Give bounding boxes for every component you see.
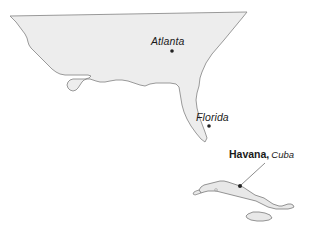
isla-de-la-juventud-landmass [246, 212, 272, 221]
cuba-west-tip-landmass [193, 190, 201, 195]
havana-city-marker [238, 184, 242, 188]
florida-label: Florida [196, 112, 229, 123]
cuba-island-landmass [199, 181, 294, 209]
havana-cuba-label: Havana,Cuba [229, 149, 294, 160]
atlanta-label: Atlanta [151, 36, 184, 47]
havana-city-label: Havana, [229, 148, 269, 160]
reference-map-figure: Atlanta Florida Havana,Cuba [0, 0, 318, 237]
atlanta-city-marker [170, 49, 174, 53]
cuba-country-label: Cuba [271, 149, 294, 160]
florida-city-marker [207, 124, 211, 128]
havana-leader-line [241, 163, 265, 185]
